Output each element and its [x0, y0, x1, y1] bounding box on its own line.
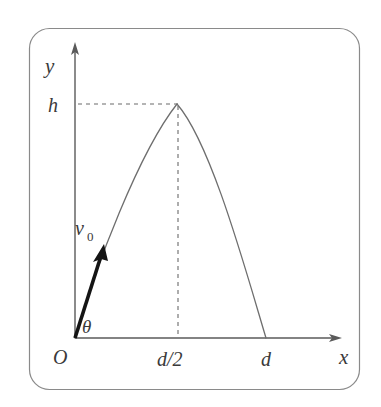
y-axis-label: y: [43, 54, 55, 78]
height-tick-label: h: [48, 94, 58, 116]
projectile-motion-diagram: y x O h d/2 d v 0 θ: [0, 0, 381, 407]
velocity-label: v: [75, 217, 84, 239]
launch-angle-label: θ: [82, 316, 91, 337]
half-range-tick-label: d/2: [157, 348, 183, 370]
range-tick-label: d: [261, 348, 272, 370]
x-axis-label: x: [338, 345, 349, 369]
velocity-label-subscript: 0: [87, 229, 94, 244]
figure-border: [30, 29, 360, 390]
figure-container: y x O h d/2 d v 0 θ: [0, 0, 381, 407]
origin-label: O: [53, 346, 67, 368]
